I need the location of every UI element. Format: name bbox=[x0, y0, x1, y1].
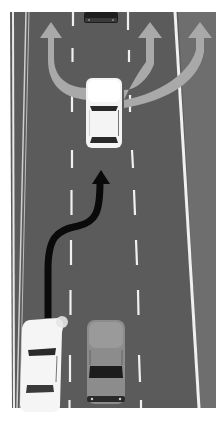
bottom-grey-car bbox=[87, 320, 125, 404]
top-white-car bbox=[86, 78, 122, 148]
road-scene bbox=[0, 0, 224, 441]
left-edge-line-outer bbox=[13, 12, 14, 408]
windshield bbox=[90, 106, 118, 111]
road-illustration bbox=[0, 0, 224, 441]
rear-window bbox=[90, 137, 118, 143]
rear-window bbox=[89, 366, 123, 378]
distant-car bbox=[84, 12, 118, 23]
rear-window bbox=[26, 385, 54, 393]
